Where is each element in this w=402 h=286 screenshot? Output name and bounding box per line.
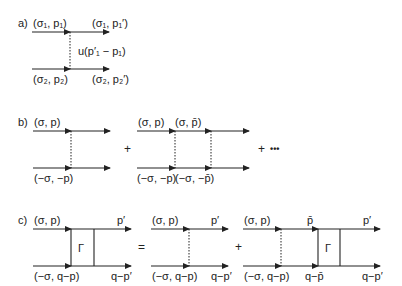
panel-a-label: a) bbox=[18, 17, 28, 29]
b1-bottom-in-label: (−σ, −p) bbox=[34, 172, 73, 184]
b2-top-mid-label: (σ, p̄) bbox=[175, 116, 201, 128]
c3-bottom-in-label: (−σ, q−p) bbox=[244, 270, 289, 282]
panel-b: b) (σ, p) (−σ, −p) + (σ, p) (σ, p̄) (−σ,… bbox=[18, 116, 279, 184]
c1-top-out-label: p′ bbox=[117, 214, 125, 226]
a-top-in-label: (σ₁, p₁) bbox=[33, 17, 67, 29]
panel-c: c) (σ, p) p′ Γ (−σ, q−p) q−p′ = (σ, p) p… bbox=[18, 214, 383, 282]
b2-bottom-mid-label: (−σ, −p̄) bbox=[175, 172, 214, 184]
a-bottom-in-label: (σ₂, p₂) bbox=[33, 73, 68, 85]
c1-top-in-label: (σ, p) bbox=[34, 214, 60, 226]
c2-bottom-out-label: q−p′ bbox=[211, 270, 232, 282]
c3-bottom-mid-label: q−p̄ bbox=[305, 270, 324, 282]
feynman-diagrams: a) (σ₁, p₁) (σ₁, p₁′) u(p′₁ − p₁) (σ₂, p… bbox=[0, 0, 402, 286]
c3-top-out-label: p′ bbox=[363, 214, 371, 226]
a-bottom-out-label: (σ₂, p₂′) bbox=[92, 73, 129, 85]
c1-gamma-label: Γ bbox=[78, 242, 84, 254]
b-plus-2: + bbox=[258, 142, 265, 156]
panel-c-label: c) bbox=[18, 214, 27, 226]
c-plus: + bbox=[235, 240, 242, 254]
a-top-out-label: (σ₁, p₁′) bbox=[92, 17, 128, 29]
b-plus-1: + bbox=[124, 142, 131, 156]
c-equals: = bbox=[138, 240, 145, 254]
c3-bottom-out-label: q−p′ bbox=[362, 270, 383, 282]
c3-top-in-label: (σ, p) bbox=[244, 214, 270, 226]
b2-top-in-label: (σ, p) bbox=[138, 116, 164, 128]
c1-bottom-in-label: (−σ, q−p) bbox=[34, 270, 79, 282]
c2-top-in-label: (σ, p) bbox=[152, 214, 178, 226]
panel-a: a) (σ₁, p₁) (σ₁, p₁′) u(p′₁ − p₁) (σ₂, p… bbox=[18, 17, 129, 85]
c3-gamma-label: Γ bbox=[325, 242, 331, 254]
a-interaction-label: u(p′₁ − p₁) bbox=[78, 45, 126, 57]
c3-top-mid-label: p̄ bbox=[307, 214, 313, 226]
b2-bottom-in-label: (−σ, −p) bbox=[137, 172, 176, 184]
panel-b-label: b) bbox=[18, 116, 28, 128]
c2-top-out-label: p′ bbox=[211, 214, 219, 226]
c1-bottom-out-label: q−p′ bbox=[111, 270, 132, 282]
c2-bottom-in-label: (−σ, q−p) bbox=[152, 270, 197, 282]
b1-top-in-label: (σ, p) bbox=[34, 116, 60, 128]
b-ellipsis: ••• bbox=[270, 144, 279, 154]
